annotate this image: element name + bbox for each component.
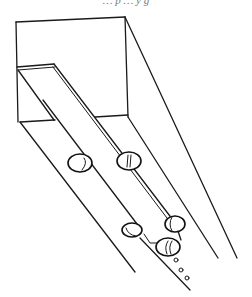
channel-edges <box>18 70 218 290</box>
outer-box <box>16 17 237 258</box>
channel-diagram <box>0 0 252 297</box>
dot-trail <box>174 258 189 280</box>
ledge-rail <box>17 64 176 226</box>
oval-rail-upper <box>117 152 141 170</box>
oval-rail-lower <box>165 216 185 232</box>
oval-left-upper <box>68 154 92 172</box>
oval-markers <box>68 152 185 256</box>
